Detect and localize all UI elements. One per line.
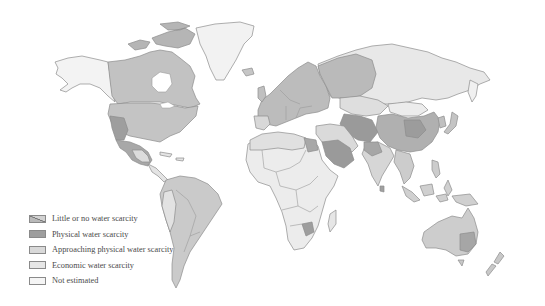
swatch-economic-icon bbox=[29, 261, 46, 269]
legend: Little or no water scarcity Physical wat… bbox=[29, 211, 173, 289]
swatch-little-icon bbox=[29, 215, 46, 223]
legend-label-not-estimated: Not estimated bbox=[52, 276, 98, 285]
legend-item-economic: Economic water scarcity bbox=[29, 258, 173, 274]
legend-item-physical: Physical water scarcity bbox=[29, 227, 173, 243]
legend-label-economic: Economic water scarcity bbox=[52, 261, 134, 270]
swatch-approaching-icon bbox=[29, 246, 46, 254]
legend-item-approaching: Approaching physical water scarcity bbox=[29, 242, 173, 258]
legend-label-approaching: Approaching physical water scarcity bbox=[52, 245, 173, 254]
swatch-physical-icon bbox=[29, 230, 46, 238]
legend-item-little: Little or no water scarcity bbox=[29, 211, 173, 227]
region-sri-lanka bbox=[380, 186, 384, 192]
legend-label-little: Little or no water scarcity bbox=[52, 214, 138, 223]
swatch-not-estimated-icon bbox=[29, 277, 46, 285]
legend-label-physical: Physical water scarcity bbox=[52, 230, 129, 239]
legend-item-not-estimated: Not estimated bbox=[29, 273, 173, 289]
